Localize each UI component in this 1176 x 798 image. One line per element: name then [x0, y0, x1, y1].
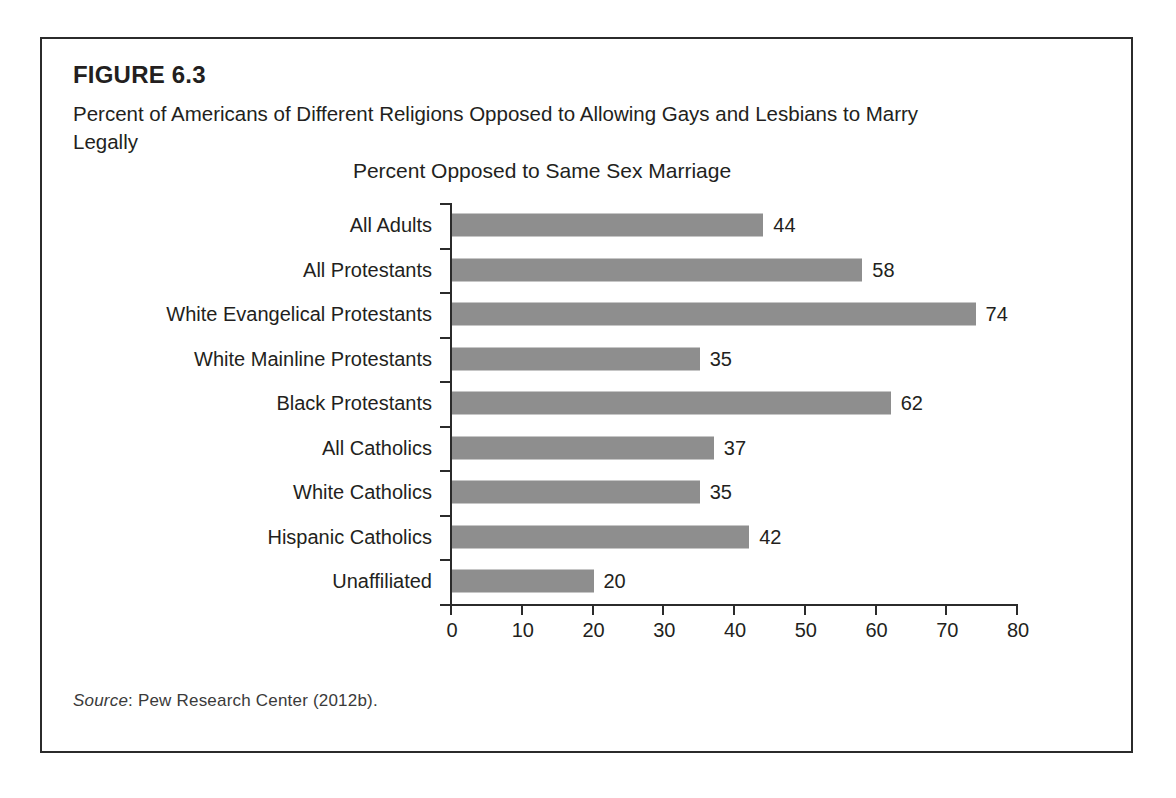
x-axis-tick — [521, 604, 523, 615]
bar-row: Black Protestants62 — [42, 381, 1130, 426]
figure-header: FIGURE 6.3 Percent of Americans of Diffe… — [73, 61, 1083, 156]
x-axis-tick-label: 80 — [988, 619, 1048, 642]
bar-row: Unaffiliated20 — [42, 559, 1130, 604]
category-label: All Catholics — [322, 436, 432, 459]
bar — [452, 392, 891, 415]
category-label: White Catholics — [293, 481, 432, 504]
x-axis-tick — [662, 604, 664, 615]
x-axis-tick-label: 60 — [847, 619, 907, 642]
category-label: Unaffiliated — [332, 570, 432, 593]
x-axis-tick — [592, 604, 594, 615]
bar-row: White Mainline Protestants35 — [42, 337, 1130, 382]
source-note: Source: Pew Research Center (2012b). — [73, 691, 378, 711]
category-label: All Protestants — [303, 258, 432, 281]
x-axis-tick-label: 50 — [776, 619, 836, 642]
x-axis-tick — [804, 604, 806, 615]
bar-value-label: 74 — [986, 303, 1008, 326]
bar-value-label: 42 — [759, 525, 781, 548]
bar-row: Hispanic Catholics42 — [42, 515, 1130, 560]
bar — [452, 436, 714, 459]
bar-row: White Catholics35 — [42, 470, 1130, 515]
x-axis-tick-label: 30 — [634, 619, 694, 642]
chart-container: Percent Opposed to Same Sex Marriage All… — [42, 159, 1130, 699]
bar — [452, 347, 700, 370]
x-axis-tick — [450, 604, 452, 615]
bar-row: All Protestants58 — [42, 248, 1130, 293]
bar-value-label: 35 — [710, 481, 732, 504]
chart-title: Percent Opposed to Same Sex Marriage — [42, 159, 1042, 183]
bar — [452, 214, 763, 237]
bar — [452, 481, 700, 504]
figure-caption: Percent of Americans of Different Religi… — [73, 100, 978, 156]
bar-row: All Adults44 — [42, 203, 1130, 248]
x-axis-tick — [875, 604, 877, 615]
x-axis-tick-label: 20 — [564, 619, 624, 642]
category-label: White Mainline Protestants — [194, 347, 432, 370]
x-axis-tick-label: 40 — [705, 619, 765, 642]
x-axis-tick — [733, 604, 735, 615]
bar-value-label: 62 — [901, 392, 923, 415]
bar-value-label: 44 — [773, 214, 795, 237]
bar — [452, 570, 594, 593]
bar-value-label: 58 — [872, 258, 894, 281]
bar-value-label: 20 — [604, 570, 626, 593]
bar — [452, 258, 862, 281]
source-text: : Pew Research Center (2012b). — [128, 691, 378, 710]
category-label: Black Protestants — [276, 392, 432, 415]
figure-frame: FIGURE 6.3 Percent of Americans of Diffe… — [40, 37, 1133, 753]
x-axis-tick — [1016, 604, 1018, 615]
x-axis-tick-label: 70 — [917, 619, 977, 642]
bar — [452, 525, 749, 548]
category-label: Hispanic Catholics — [267, 525, 432, 548]
source-label: Source — [73, 691, 128, 710]
x-axis-tick-label: 10 — [493, 619, 553, 642]
bar — [452, 303, 976, 326]
bar-value-label: 35 — [710, 347, 732, 370]
category-label: White Evangelical Protestants — [166, 303, 432, 326]
x-axis-tick — [945, 604, 947, 615]
category-label: All Adults — [350, 214, 432, 237]
bar-row: White Evangelical Protestants74 — [42, 292, 1130, 337]
bar-value-label: 37 — [724, 436, 746, 459]
bar-chart-plot-area: All Adults44All Protestants58White Evang… — [42, 203, 1130, 683]
x-axis-tick-label: 0 — [422, 619, 482, 642]
bar-row: All Catholics37 — [42, 426, 1130, 471]
figure-number: FIGURE 6.3 — [73, 61, 1083, 90]
